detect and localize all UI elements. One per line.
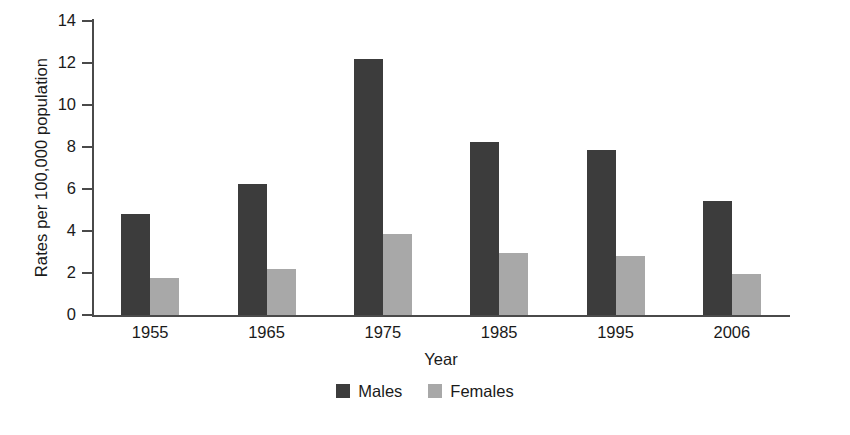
bar-females-1955 <box>150 278 179 315</box>
bar-males-2006 <box>703 201 732 315</box>
y-tick-label-text: 12 <box>40 54 76 71</box>
y-tick-label-text: 6 <box>40 180 76 197</box>
bar-males-1975 <box>354 59 383 315</box>
plot-area <box>92 21 790 315</box>
y-tick-label-text: 4 <box>40 222 76 239</box>
y-tick-label-text: 2 <box>40 264 76 281</box>
y-tick-label: 12 <box>40 54 76 71</box>
legend-label: Females <box>450 383 513 400</box>
bar-males-1985 <box>470 142 499 315</box>
bar-males-1965 <box>238 184 267 315</box>
legend-item-females: Females <box>428 383 513 400</box>
y-tick-label: 0 <box>40 306 76 323</box>
chart-legend: MalesFemales <box>0 383 850 400</box>
bar-group <box>343 21 423 315</box>
legend-swatch-females <box>428 384 442 398</box>
y-tick-label: 8 <box>40 138 76 155</box>
legend-item-males: Males <box>336 383 402 400</box>
x-tick-label: 1985 <box>439 324 559 341</box>
x-tick-label: 1955 <box>90 324 210 341</box>
y-tick-label: 14 <box>40 12 76 29</box>
x-axis-title: Year <box>92 350 790 369</box>
bar-females-1995 <box>616 256 645 315</box>
bar-group <box>459 21 539 315</box>
x-tick-label: 1975 <box>323 324 443 341</box>
bar-chart: Rates per 100,000 population 02468101214… <box>0 0 850 435</box>
bar-females-2006 <box>732 274 761 315</box>
x-tick-label: 1965 <box>207 324 327 341</box>
y-axis-title: Rates per 100,000 population <box>18 0 64 335</box>
x-tick-label: 1995 <box>556 324 676 341</box>
y-tick-label-text: 8 <box>40 138 76 155</box>
bar-group <box>576 21 656 315</box>
y-tick-label-text: 10 <box>40 96 76 113</box>
bar-group <box>692 21 772 315</box>
y-tick-label: 2 <box>40 264 76 281</box>
y-tick-label: 4 <box>40 222 76 239</box>
bar-group <box>110 21 190 315</box>
legend-swatch-males <box>336 384 350 398</box>
bar-males-1955 <box>121 214 150 315</box>
bar-females-1985 <box>499 253 528 315</box>
bar-females-1975 <box>383 234 412 315</box>
bar-females-1965 <box>267 269 296 315</box>
y-tick-label-text: 14 <box>40 12 76 29</box>
x-tick-label: 2006 <box>672 324 792 341</box>
y-tick-label-text: 0 <box>40 306 76 323</box>
y-tick-label: 6 <box>40 180 76 197</box>
bar-males-1995 <box>587 150 616 315</box>
bar-group <box>227 21 307 315</box>
x-axis-line <box>92 315 790 317</box>
legend-label: Males <box>358 383 402 400</box>
y-tick-label: 10 <box>40 96 76 113</box>
